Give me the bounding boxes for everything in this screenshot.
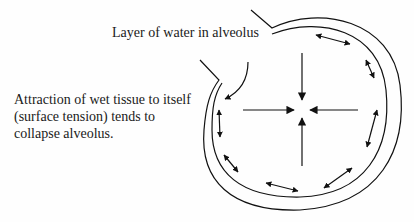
- tangential-arrows: [219, 35, 377, 191]
- alveolus-diagram: Layer of water in alveolus Attraction of…: [0, 0, 414, 222]
- water-layer-label: Layer of water in alveolus: [112, 24, 259, 41]
- surface-tension-label: Attraction of wet tissue to itself (surf…: [14, 91, 204, 142]
- inward-arrows: [243, 53, 358, 166]
- label-leader-arrow: [225, 62, 248, 99]
